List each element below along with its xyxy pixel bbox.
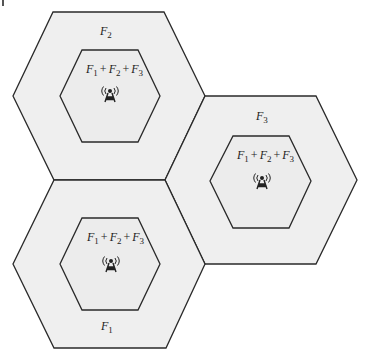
cell-bottom: F1 F1+F2+F3	[13, 180, 205, 348]
cell-diagram: F2 F1+F2+F3 F3 F1+F2+F3 F1 F1+F2+F3	[0, 0, 369, 358]
edge-mark	[2, 0, 4, 6]
diagram-svg: F2 F1+F2+F3 F3 F1+F2+F3 F1 F1+F2+F3	[0, 0, 369, 358]
cell-right: F3 F1+F2+F3	[165, 96, 357, 264]
cell-top: F2 F1+F2+F3	[13, 12, 205, 180]
